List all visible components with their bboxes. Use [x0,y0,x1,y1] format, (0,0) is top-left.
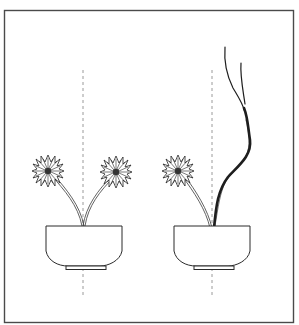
flower-icon [100,156,132,188]
flower-icon [32,155,64,187]
flower-stems [182,175,212,228]
flower-icon [162,155,194,187]
left-arrangement [32,70,132,296]
right-arrangement [162,47,250,296]
ikebana-diagram [0,0,299,325]
bowl [46,226,122,270]
branch [214,47,250,228]
bowl [174,226,250,270]
